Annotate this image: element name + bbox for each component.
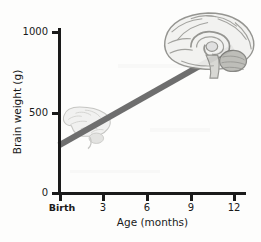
toddler-brain-illustration bbox=[165, 13, 254, 78]
x-tick-6 bbox=[146, 192, 149, 201]
scan-artifact bbox=[150, 128, 210, 132]
x-axis-title-text: Age (months) bbox=[117, 216, 188, 228]
x-tick-birth bbox=[59, 192, 62, 201]
x-tick-3 bbox=[102, 192, 105, 201]
infant-brain-illustration bbox=[63, 107, 110, 149]
y-tick-label-500: 500 bbox=[29, 107, 48, 118]
y-tick-1000 bbox=[52, 31, 61, 34]
x-tick-label-3: 3 bbox=[100, 202, 106, 213]
scan-artifact bbox=[118, 64, 188, 68]
x-tick-label-birth: Birth bbox=[49, 202, 76, 213]
x-axis bbox=[58, 192, 246, 195]
x-tick-12 bbox=[233, 192, 236, 201]
y-tick-label-0: 0 bbox=[42, 187, 48, 198]
x-tick-9 bbox=[190, 192, 193, 201]
brain-weight-growth-chart: 1000 500 0 Birth 3 6 9 12 Age (months) B… bbox=[0, 0, 261, 242]
y-tick-500 bbox=[52, 112, 61, 115]
scan-artifact bbox=[70, 170, 160, 173]
x-tick-label-6: 6 bbox=[144, 202, 150, 213]
x-axis-title: Age (months) bbox=[0, 216, 261, 228]
x-tick-label-12: 12 bbox=[228, 202, 241, 213]
y-tick-label-1000: 1000 bbox=[23, 26, 48, 37]
x-tick-label-9: 9 bbox=[188, 202, 194, 213]
y-axis-title: Brain weight (g) bbox=[11, 47, 23, 177]
